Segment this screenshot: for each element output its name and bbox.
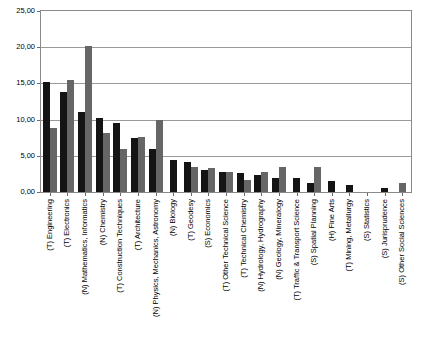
- x-axis-label-cell: (N) Geology, Mineralogy: [270, 197, 288, 342]
- x-axis-label-cell: (T) Geodesy: [182, 197, 200, 342]
- bar-group: [217, 11, 235, 192]
- bar-group: [112, 11, 130, 192]
- bar: [96, 118, 103, 192]
- bar-group: [358, 11, 376, 192]
- x-axis-tick-label: (T) Mining, Metallurgy: [345, 199, 353, 272]
- bar: [314, 167, 321, 192]
- x-axis-tick-label: (T) Traffic & Transport Science: [293, 199, 301, 301]
- bar-group: [59, 11, 77, 192]
- bar: [328, 181, 335, 192]
- x-axis-label-cell: (N) Biology: [164, 197, 182, 342]
- bar: [237, 173, 244, 192]
- bar: [50, 128, 57, 192]
- bar-group: [323, 11, 341, 192]
- y-axis: 25,0020,0015,0010,005,000,00: [0, 0, 38, 193]
- bar-group: [288, 11, 306, 192]
- bar: [191, 167, 198, 192]
- x-axis-label-cell: (S) Economics: [200, 197, 218, 342]
- bar-group: [270, 11, 288, 192]
- bar: [67, 80, 74, 192]
- x-axis-label-cell: (N) Hydrology, Hydrography: [253, 197, 271, 342]
- bar: [219, 172, 226, 192]
- y-axis-tick-label: 15,00: [16, 80, 35, 88]
- x-axis-tick-label: (S) Spatial Planning: [310, 199, 318, 265]
- bar: [279, 167, 286, 192]
- x-axis-label-cell: (T) Construction Techniques: [112, 197, 130, 342]
- bar: [381, 188, 388, 192]
- bar-group: [305, 11, 323, 192]
- bar-group: [164, 11, 182, 192]
- x-axis-label-cell: (N) Mathematics, Informatics: [76, 197, 94, 342]
- chart-title-sliver: [0, 0, 421, 4]
- bar-group: [200, 11, 218, 192]
- bar: [156, 120, 163, 192]
- bar: [131, 138, 138, 192]
- y-axis-tick-label: 25,00: [16, 7, 35, 15]
- x-axis-label-cell: (S) Statistics: [358, 197, 376, 342]
- bar: [113, 123, 120, 192]
- x-axis-label-cell: (N) Chemistry: [94, 197, 112, 342]
- x-axis-tick-label: (N) Hydrology, Hydrography: [257, 199, 265, 292]
- x-axis-tick-label: (T) Construction Techniques: [116, 199, 124, 293]
- bar: [103, 133, 110, 192]
- bar-group: [76, 11, 94, 192]
- x-axis-tick-label: (N) Mathematics, Informatics: [81, 199, 89, 295]
- bar: [244, 180, 251, 192]
- x-axis-tick-label: (S) Statistics: [363, 199, 371, 241]
- x-axis-label-cell: (S) Spatial Planning: [305, 197, 323, 342]
- bar: [149, 149, 156, 192]
- x-axis-label-cell: (H) Fine Arts: [323, 197, 341, 342]
- x-axis-label-cell: (T) Architecture: [129, 197, 147, 342]
- x-axis-tick-label: (T) Other Technical Science: [222, 199, 230, 291]
- bar: [78, 112, 85, 192]
- x-axis-label-cell: (T) Mining, Metallurgy: [341, 197, 359, 342]
- x-axis-label-cell: (T) Engineering: [41, 197, 59, 342]
- x-axis-label-cell: (S) Jurisprudence: [376, 197, 394, 342]
- x-axis-tick-label: (S) Economics: [204, 199, 212, 248]
- x-axis-tick-label: (N) Physics, Mechanics, Astronomy: [152, 199, 160, 317]
- y-axis-tick-label: 10,00: [16, 116, 35, 124]
- y-axis-tick-label: 20,00: [16, 43, 35, 51]
- bar-group: [129, 11, 147, 192]
- x-axis-tick-label: (T) Architecture: [134, 199, 142, 250]
- x-axis-tick-label: (N) Biology: [169, 199, 177, 236]
- bar-group: [94, 11, 112, 192]
- x-axis-tick-label: (T) Electronics: [63, 199, 71, 247]
- bar-chart: 25,0020,0015,0010,005,000,00 (T) Enginee…: [0, 0, 421, 342]
- bar-group: [253, 11, 271, 192]
- x-axis-tick-label: (T) Geodesy: [187, 199, 195, 241]
- bar-group: [147, 11, 165, 192]
- bar: [293, 178, 300, 192]
- x-axis-labels: (T) Engineering(T) Electronics(N) Mathem…: [41, 197, 411, 342]
- bar-group: [376, 11, 394, 192]
- bar: [201, 170, 208, 192]
- y-axis-tick-label: 0,00: [20, 188, 35, 196]
- bar: [254, 175, 261, 192]
- bar: [307, 183, 314, 192]
- x-axis-label-cell: (S) Other Social Sciences: [394, 197, 412, 342]
- bar: [184, 162, 191, 192]
- bar: [261, 172, 268, 192]
- bar: [138, 137, 145, 192]
- bar: [43, 82, 50, 192]
- bar: [85, 46, 92, 192]
- x-axis-label-cell: (T) Other Technical Science: [217, 197, 235, 342]
- bar-group: [394, 11, 412, 192]
- x-axis-tick-label: (S) Other Social Sciences: [398, 199, 406, 285]
- x-axis-tick-label: (S) Jurisprudence: [381, 199, 389, 258]
- x-axis-tick-label: (T) Engineering: [46, 199, 54, 251]
- y-axis-tick-label: 5,00: [20, 152, 35, 160]
- bar: [226, 172, 233, 192]
- bar: [120, 149, 127, 192]
- bar: [346, 185, 353, 192]
- x-axis-label-cell: (T) Technical Chemistry: [235, 197, 253, 342]
- bar: [399, 183, 406, 192]
- bar-group: [341, 11, 359, 192]
- x-axis-label-cell: (N) Physics, Mechanics, Astronomy: [147, 197, 165, 342]
- x-axis-label-cell: (T) Electronics: [59, 197, 77, 342]
- x-axis-tick-label: (N) Chemistry: [99, 199, 107, 245]
- bar: [208, 168, 215, 192]
- x-axis-tick-label: (N) Geology, Mineralogy: [275, 199, 283, 280]
- x-axis-tick-label: (H) Fine Arts: [328, 199, 336, 241]
- bar: [272, 178, 279, 192]
